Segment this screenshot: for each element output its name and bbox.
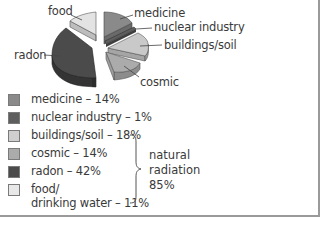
annotation-line: radiation <box>149 163 200 178</box>
legend-swatch <box>8 148 20 160</box>
legend-item-nuclear-industry: nuclear industry – 1% <box>8 110 152 128</box>
legend-swatch <box>8 184 20 196</box>
natural-radiation-annotation: natural radiation 85% <box>149 148 200 193</box>
legend-text: radon – 42% <box>31 164 101 178</box>
pie-label-radon: radon <box>14 49 46 62</box>
legend-item-medicine: medicine – 14% <box>8 92 152 110</box>
pie-label-medicine: medicine <box>134 7 185 20</box>
pie-label-nuclear-industry: nuclear industry <box>154 21 245 34</box>
annotation-line: natural <box>149 148 200 163</box>
annotation-line: 85% <box>149 178 200 193</box>
legend-swatch <box>8 112 20 124</box>
legend-text: buildings/soil – 18% <box>31 128 141 142</box>
legend-swatch <box>8 166 20 178</box>
curly-brace-icon <box>128 133 144 205</box>
legend-swatch <box>8 130 20 142</box>
legend-text: medicine – 14% <box>31 92 119 106</box>
legend-text: nuclear industry – 1% <box>31 110 152 124</box>
pie-label-cosmic: cosmic <box>140 76 179 89</box>
legend-swatch <box>8 94 20 106</box>
pie-label-buildings-soil: buildings/soil <box>164 39 237 52</box>
pie-label-food: food <box>48 5 73 18</box>
legend-text: cosmic – 14% <box>31 146 107 160</box>
